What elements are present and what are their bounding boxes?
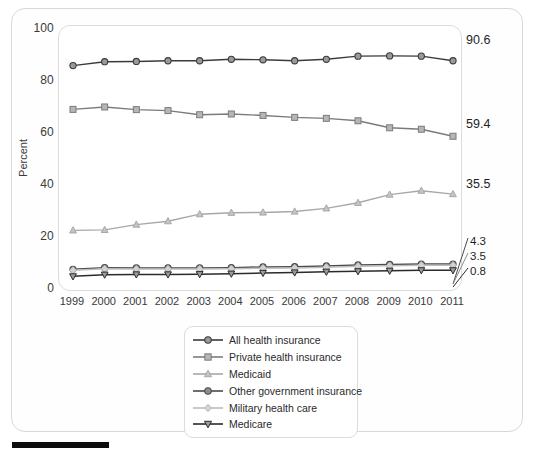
legend: All health insurancePrivate health insur… — [184, 326, 358, 438]
y-tick-100: 100 — [18, 21, 54, 35]
legend-label: All health insurance — [225, 334, 321, 346]
y-tick-80: 80 — [18, 73, 54, 87]
legend-item-medicare[interactable]: Medicare — [191, 416, 351, 433]
series-layer — [70, 53, 457, 280]
y-tick-40: 40 — [18, 177, 54, 191]
bottom-black-bar — [12, 442, 109, 448]
circle-marker-icon — [191, 333, 225, 347]
y-axis-title: Percent — [17, 139, 29, 177]
square-marker-icon — [191, 350, 225, 364]
triangle-down-marker-icon — [191, 417, 225, 431]
triangle-up-marker-icon — [191, 367, 225, 381]
x-axis: 1999200020012002200320042005200620072008… — [58, 292, 462, 314]
legend-item-military-health-care[interactable]: Military health care — [191, 399, 351, 416]
legend-item-medicaid[interactable]: Medicaid — [191, 366, 351, 383]
legend-item-private-health-insurance[interactable]: Private health insurance — [191, 349, 351, 366]
legend-label: Military health care — [225, 402, 317, 414]
legend-item-all-health-insurance[interactable]: All health insurance — [191, 332, 351, 349]
end-label-private-health-insurance: 59.4 — [466, 117, 490, 131]
x-tick-2011: 2011 — [432, 295, 472, 307]
y-tick-0: 0 — [18, 281, 54, 295]
y-tick-20: 20 — [18, 229, 54, 243]
diamond-marker-icon — [191, 401, 225, 415]
series-private-health-insurance — [70, 104, 456, 139]
end-label-medicaid: 35.5 — [466, 177, 490, 191]
y-tick-60: 60 — [18, 125, 54, 139]
legend-label: Medicare — [225, 418, 272, 430]
series-medicaid — [70, 187, 457, 233]
series-all-health-insurance — [70, 53, 456, 69]
leader-lines — [440, 232, 480, 288]
y-axis: 100 80 60 40 20 0 Percent — [10, 0, 54, 451]
chart-page: 100 80 60 40 20 0 Percent 19992000200120… — [0, 0, 535, 451]
plot-area — [58, 25, 462, 291]
chart-svg — [59, 26, 463, 292]
legend-label: Medicaid — [225, 368, 271, 380]
legend-label: Other government insurance — [225, 385, 362, 397]
legend-label: Private health insurance — [225, 351, 342, 363]
end-label-all-health-insurance: 90.6 — [466, 33, 490, 47]
circle-cross-marker-icon — [191, 384, 225, 398]
legend-item-other-government-insurance[interactable]: Other government insurance — [191, 382, 351, 399]
